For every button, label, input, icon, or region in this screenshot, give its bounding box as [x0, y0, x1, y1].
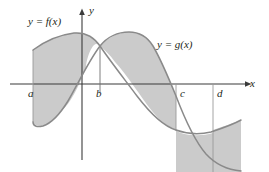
tick-label-d: d: [217, 88, 223, 99]
tick-label-a: a: [28, 88, 34, 99]
y-axis-label: y: [89, 5, 94, 16]
curve-g-label: y = g(x): [157, 39, 193, 50]
tick-label-c: c: [180, 88, 185, 99]
x-axis-label: x: [250, 78, 255, 89]
curve-f-label: y = f(x): [28, 16, 61, 27]
tick-label-b: b: [96, 88, 102, 99]
shaded-region-a-to-b: [33, 33, 100, 126]
area-between-curves-figure: y = f(x) y = g(x) x y a b c d: [0, 0, 269, 172]
